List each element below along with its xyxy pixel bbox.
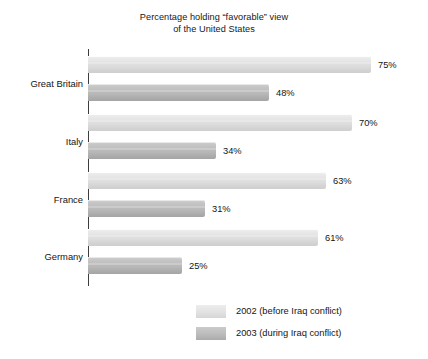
bar-fill [88,172,326,189]
bar-italy-2002 [88,114,352,131]
bar-fill [88,56,371,73]
bar-great-britain-2003 [88,84,269,101]
bar-great-britain-2002 [88,56,371,73]
bar-chart: Percentage holding “favorable” view of t… [0,0,428,359]
bar-fill [88,200,205,217]
value-label-france-2002: 63% [333,176,352,187]
legend-swatch-2003-icon [196,327,226,340]
bar-fill [88,84,269,101]
bar-fill [88,257,182,274]
value-label-great-britain-2002: 75% [378,60,397,71]
value-label-france-2003: 31% [212,204,231,215]
value-label-italy-2002: 70% [359,118,378,129]
value-label-germany-2002: 61% [325,233,344,244]
category-label-italy: Italy [66,136,83,147]
category-label-germany: Germany [44,251,83,262]
value-label-great-britain-2003: 48% [276,88,295,99]
legend-label-2002: 2002 (before Iraq conflict) [236,303,342,319]
bar-germany-2002 [88,229,318,246]
value-label-italy-2003: 34% [223,146,242,157]
bar-france-2002 [88,172,326,189]
bar-fill [88,142,216,159]
bar-france-2003 [88,200,205,217]
category-label-great-britain: Great Britain [30,78,83,89]
bar-italy-2003 [88,142,216,159]
bar-fill [88,114,352,131]
bar-germany-2003 [88,257,182,274]
value-label-germany-2003: 25% [189,261,208,272]
category-label-france: France [54,194,83,205]
legend-swatch-2002-icon [196,305,226,318]
legend-label-2003: 2003 (during Iraq conflict) [236,325,341,341]
bar-fill [88,229,318,246]
